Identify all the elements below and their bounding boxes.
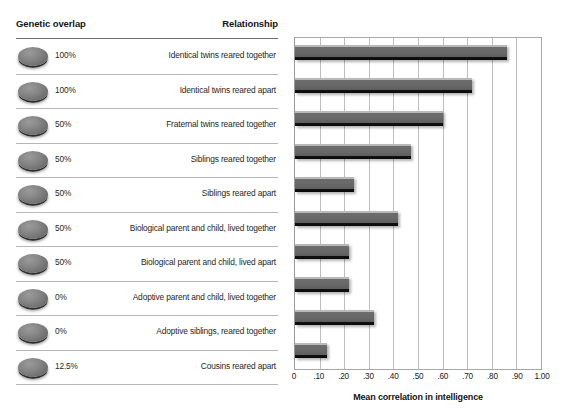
- genetic-overlap-disc-icon: [18, 254, 48, 273]
- genetic-overlap-value: 100%: [55, 50, 76, 60]
- chart-bar-row: [295, 336, 541, 369]
- chart-bar: [295, 343, 327, 358]
- chart-bar: [295, 45, 507, 60]
- table-body: 100%Identical twins reared together100%I…: [16, 40, 278, 385]
- genetic-overlap-disc-icon: [18, 185, 48, 204]
- genetic-overlap-disc-icon: [18, 289, 48, 308]
- genetic-overlap-value: 50%: [55, 188, 71, 198]
- relationship-label: Fraternal twins reared together: [166, 119, 276, 129]
- x-tick-label: 1.00: [534, 372, 549, 381]
- x-tick-label: .30: [363, 372, 374, 381]
- relationship-label: Biological parent and child, lived toget…: [130, 223, 276, 233]
- relationship-label: Adoptive parent and child, lived togethe…: [133, 292, 276, 302]
- chart-bar: [295, 144, 411, 159]
- chart-bar-row: [295, 38, 541, 71]
- x-tick-label: .90: [512, 372, 523, 381]
- x-tick-label: .70: [462, 372, 473, 381]
- chart-bar-row: [295, 204, 541, 237]
- chart-bar: [295, 111, 443, 126]
- x-tick-label: .10: [313, 372, 324, 381]
- genetic-overlap-value: 12.5%: [55, 361, 78, 371]
- table-row: 50%Biological parent and child, lived to…: [16, 213, 278, 248]
- bar-chart-plot-area: [294, 37, 542, 370]
- genetic-overlap-disc-icon: [18, 116, 48, 135]
- column-header-relationship: Relationship: [222, 18, 278, 29]
- table-row: 0%Adoptive siblings, reared together: [16, 316, 278, 351]
- table-header-row: Genetic overlap Relationship: [16, 18, 278, 39]
- table-row: 50%Biological parent and child, lived ap…: [16, 247, 278, 282]
- chart-bar: [295, 211, 398, 226]
- x-tick-label: .80: [487, 372, 498, 381]
- relationship-label: Identical twins reared apart: [180, 85, 276, 95]
- relationship-label: Biological parent and child, lived apart: [141, 257, 276, 267]
- table-row: 100%Identical twins reared together: [16, 40, 278, 75]
- genetic-overlap-value: 50%: [55, 223, 71, 233]
- chart-bar: [295, 177, 354, 192]
- genetic-overlap-disc-icon: [18, 220, 48, 239]
- chart-bar-row: [295, 303, 541, 336]
- genetic-overlap-disc-icon: [18, 47, 48, 66]
- x-axis-tick-labels: 0.10.20.30.40.50.60.70.80.901.00: [294, 372, 542, 386]
- table-row: 50%Fraternal twins reared together: [16, 109, 278, 144]
- chart-bar-row: [295, 237, 541, 270]
- x-tick-label: .60: [437, 372, 448, 381]
- x-tick-label: .40: [388, 372, 399, 381]
- chart-bar: [295, 244, 349, 259]
- genetic-overlap-value: 0%: [55, 326, 67, 336]
- table-row: 100%Identical twins reared apart: [16, 75, 278, 110]
- genetic-overlap-value: 50%: [55, 154, 71, 164]
- table-row: 50%Siblings reared apart: [16, 178, 278, 213]
- x-tick-label: 0: [292, 372, 296, 381]
- chart-bar: [295, 277, 349, 292]
- chart-bar-row: [295, 71, 541, 104]
- genetic-overlap-value: 0%: [55, 292, 67, 302]
- column-header-genetic-overlap: Genetic overlap: [16, 18, 86, 29]
- chart-bar: [295, 310, 374, 325]
- relationship-label: Identical twins reared together: [168, 50, 276, 60]
- genetic-overlap-disc-icon: [18, 323, 48, 342]
- x-tick-label: .50: [413, 372, 424, 381]
- x-axis-title: Mean correlation in intelligence: [294, 392, 542, 402]
- relationship-table: Genetic overlap Relationship 100%Identic…: [0, 0, 292, 420]
- relationship-label: Cousins reared apart: [201, 361, 276, 371]
- relationship-label: Adoptive siblings, reared together: [156, 326, 276, 336]
- x-tick-label: .20: [338, 372, 349, 381]
- relationship-label: Siblings reared together: [191, 154, 276, 164]
- genetic-overlap-disc-icon: [18, 358, 48, 377]
- genetic-overlap-disc-icon: [18, 151, 48, 170]
- table-row: 12.5%Cousins reared apart: [16, 351, 278, 386]
- chart-bar-row: [295, 137, 541, 170]
- relationship-label: Siblings reared apart: [202, 188, 276, 198]
- chart-bar: [295, 78, 472, 93]
- genetic-overlap-value: 50%: [55, 257, 71, 267]
- genetic-overlap-value: 50%: [55, 119, 71, 129]
- genetic-overlap-disc-icon: [18, 82, 48, 101]
- heritability-intelligence-figure: Genetic overlap Relationship 100%Identic…: [0, 0, 570, 420]
- chart-bar-row: [295, 170, 541, 203]
- genetic-overlap-value: 100%: [55, 85, 76, 95]
- table-row: 50%Siblings reared together: [16, 144, 278, 179]
- table-row: 0%Adoptive parent and child, lived toget…: [16, 282, 278, 317]
- chart-bar-row: [295, 270, 541, 303]
- chart-bar-row: [295, 104, 541, 137]
